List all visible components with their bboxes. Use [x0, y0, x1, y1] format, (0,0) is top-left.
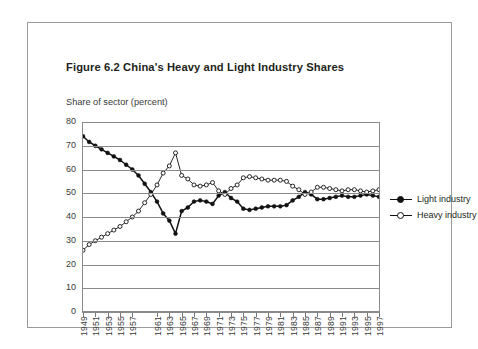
data-point: [285, 179, 289, 183]
gridline: [82, 146, 380, 147]
gridline: [82, 217, 380, 218]
data-point: [100, 235, 104, 239]
data-point: [285, 203, 289, 207]
x-tick-label: 1951: [91, 316, 101, 336]
x-tick-label: 1961: [153, 316, 163, 336]
x-tick-label: 1963: [165, 316, 175, 336]
data-point: [346, 195, 350, 199]
x-tick-label: 1957: [128, 316, 138, 336]
gridline: [82, 122, 380, 123]
data-point: [112, 228, 116, 232]
data-point: [248, 208, 252, 212]
data-point: [167, 219, 171, 223]
figure-border: Figure 6.2 China's Heavy and Light Indus…: [27, 22, 452, 328]
x-tick-label: 1977: [252, 316, 262, 336]
data-point: [174, 151, 178, 155]
x-tick-label: 1953: [104, 316, 114, 336]
x-tick-label: 1965: [178, 316, 188, 336]
x-tick-label: 1949: [79, 316, 89, 336]
figure-title: Figure 6.2 China's Heavy and Light Indus…: [66, 61, 344, 73]
data-point: [352, 188, 356, 192]
data-point: [106, 232, 110, 236]
gridline: [82, 193, 380, 194]
data-point: [87, 140, 91, 144]
data-point: [124, 220, 128, 224]
y-tick-label: 80: [30, 116, 76, 126]
y-axis-title: Share of sector (percent): [66, 97, 168, 107]
y-tick-label: 10: [30, 282, 76, 292]
data-point: [254, 207, 258, 211]
data-point: [82, 134, 85, 138]
x-tick-label: 1997: [375, 316, 385, 336]
x-tick-label: 1969: [202, 316, 212, 336]
data-point: [192, 183, 196, 187]
data-point: [322, 185, 326, 189]
data-point: [266, 178, 270, 182]
gridline: [82, 265, 380, 266]
data-point: [272, 178, 276, 182]
y-tick-label: 50: [30, 187, 76, 197]
y-tick-label: 40: [30, 211, 76, 221]
data-point: [204, 183, 208, 187]
data-point: [198, 198, 202, 202]
data-point: [315, 197, 319, 201]
data-point: [377, 195, 380, 199]
data-point: [254, 176, 258, 180]
data-point: [211, 181, 215, 185]
data-point: [346, 188, 350, 192]
hollow-circle-icon: [390, 210, 412, 220]
legend-label: Light industry: [417, 194, 471, 204]
data-point: [340, 189, 344, 193]
x-axis-tick-labels: 1949195119531955195719611963196519671969…: [82, 316, 381, 349]
data-point: [155, 183, 159, 187]
data-point: [186, 177, 190, 181]
data-point: [229, 187, 233, 191]
data-point: [272, 204, 276, 208]
data-point: [82, 248, 85, 252]
data-point: [100, 147, 104, 151]
data-point: [186, 206, 190, 210]
data-point: [106, 151, 110, 155]
x-tick-label: 1985: [301, 316, 311, 336]
data-point: [291, 184, 295, 188]
data-point: [167, 164, 171, 168]
x-tick-label: 1995: [363, 316, 373, 336]
gridline: [82, 288, 380, 289]
y-tick-label: 30: [30, 235, 76, 245]
data-point: [211, 202, 215, 206]
data-point: [180, 209, 184, 213]
data-point: [87, 243, 91, 247]
data-point: [315, 185, 319, 189]
x-tick-label: 1975: [239, 316, 249, 336]
data-point: [235, 183, 239, 187]
data-point: [297, 195, 301, 199]
data-point: [217, 189, 221, 193]
data-point: [137, 209, 141, 213]
data-point: [235, 200, 239, 204]
legend: Light industryHeavy industry: [390, 191, 477, 223]
data-point: [192, 200, 196, 204]
data-point: [229, 196, 233, 200]
x-tick-label: 1991: [338, 316, 348, 336]
x-tick-label: 1973: [227, 316, 237, 336]
data-point: [143, 182, 147, 186]
data-point: [161, 171, 165, 175]
y-tick-label: 0: [30, 306, 76, 316]
data-point: [248, 175, 252, 179]
data-point: [180, 173, 184, 177]
data-point: [112, 155, 116, 159]
gridline: [82, 170, 380, 171]
data-point: [118, 225, 122, 229]
x-tick-label: 1981: [276, 316, 286, 336]
x-tick-label: 1955: [116, 316, 126, 336]
data-point: [328, 187, 332, 191]
data-point: [204, 200, 208, 204]
data-point: [266, 204, 270, 208]
data-point: [241, 176, 245, 180]
data-point: [377, 188, 380, 192]
legend-item[interactable]: Light industry: [390, 191, 477, 207]
x-tick-label: 1979: [264, 316, 274, 336]
legend-item[interactable]: Heavy industry: [390, 207, 477, 223]
y-axis-tick-labels: 01020304050607080: [28, 122, 76, 312]
data-point: [352, 195, 356, 199]
